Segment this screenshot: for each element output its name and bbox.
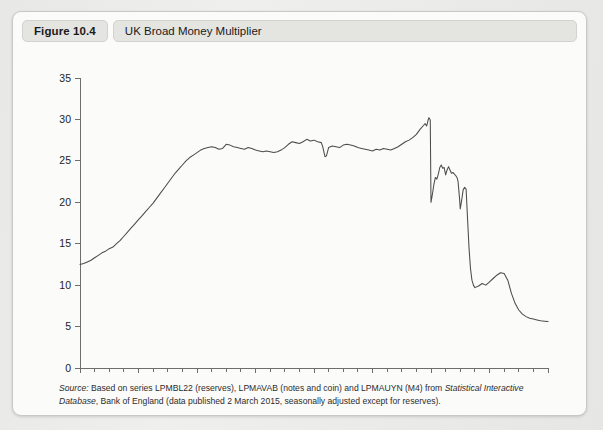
source-note: Source: Based on series LPMBL22 (reserve…	[59, 382, 553, 408]
money-multiplier-line	[80, 118, 548, 322]
x-tick-group: 198319871991199519992003200720112015	[68, 368, 560, 376]
y-tick-label: 25	[59, 154, 71, 166]
x-tick-label: 1991	[185, 375, 209, 376]
x-tick-label: 2003	[361, 375, 385, 376]
y-tick-group: 05101520253035	[59, 72, 80, 374]
chart-plot-area: 05101520253035 1983198719911995199920032…	[13, 46, 586, 376]
y-tick-label: 5	[65, 320, 71, 332]
y-tick-label: 0	[65, 362, 71, 374]
figure-number-badge: Figure 10.4	[22, 20, 108, 42]
x-tick-label: 1987	[127, 375, 151, 376]
y-tick-label: 35	[59, 72, 71, 84]
figure-page: Figure 10.4 UK Broad Money Multiplier 05…	[0, 0, 603, 430]
y-tick-label: 20	[59, 196, 71, 208]
x-tick-label: 1995	[244, 375, 268, 376]
figure-header: Figure 10.4 UK Broad Money Multiplier	[22, 20, 577, 42]
y-tick-label: 10	[59, 279, 71, 291]
figure-title: UK Broad Money Multiplier	[113, 20, 577, 42]
source-text-1: Based on series LPMBL22 (reserves), LPMA…	[89, 383, 445, 393]
source-text-2: , Bank of England (data published 2 Marc…	[96, 396, 441, 406]
y-axis: 05101520253035	[59, 72, 80, 374]
x-tick-label: 2011	[478, 375, 501, 376]
x-tick-label: 2007	[419, 375, 443, 376]
x-tick-label: 2015	[536, 375, 560, 376]
y-tick-label: 30	[59, 113, 71, 125]
x-tick-label: 1983	[68, 375, 92, 376]
chart-svg: 05101520253035 1983198719911995199920032…	[13, 46, 586, 376]
y-tick-label: 15	[59, 237, 71, 249]
source-label: Source:	[59, 383, 89, 393]
x-axis: 198319871991199519992003200720112015	[68, 368, 560, 376]
figure-frame: Figure 10.4 UK Broad Money Multiplier 05…	[12, 11, 587, 416]
x-tick-label: 1999	[302, 375, 326, 376]
